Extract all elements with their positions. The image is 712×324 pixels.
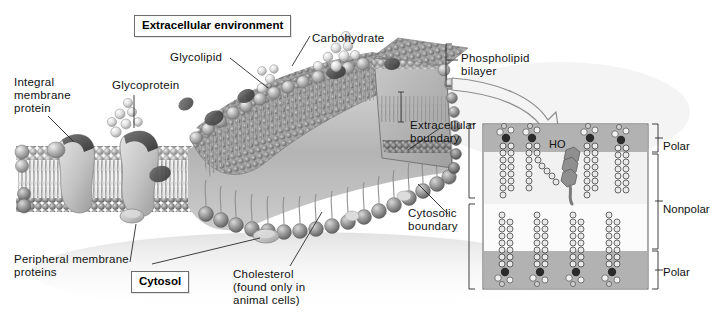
figure-canvas: HO Extracellular environment Cytosol Int… (0, 0, 712, 324)
nonpolar-label: Nonpolar (663, 203, 710, 216)
extracellular-environment-box: Extracellular environment (134, 15, 291, 37)
peripheral-membrane-protein-left (120, 209, 144, 223)
peripheral-membrane-protein-right (253, 229, 279, 243)
cholesterol-label: Cholesterol (found only in animal cells) (233, 268, 305, 308)
integral-membrane-protein-label: Integral membrane protein (14, 76, 71, 116)
polar-bottom-label: Polar (663, 266, 690, 279)
left-bilayer-strip (15, 145, 198, 213)
hydroxyl-label-svg: HO (549, 138, 566, 150)
extracellular-boundary-label: Extracellular boundary (410, 119, 476, 145)
cytosol-box: Cytosol (131, 271, 189, 293)
inset-panel: HO (469, 123, 663, 289)
leader-integral-protein (48, 116, 74, 142)
glycoprotein-label: Glycoprotein (112, 79, 179, 92)
inset-right-brackets (652, 124, 663, 289)
polar-top-label: Polar (663, 140, 690, 153)
leader-carbohydrate (292, 36, 310, 66)
cytosolic-boundary-label: Cytosolic boundary (408, 207, 458, 233)
carbohydrate-label: Carbohydrate (312, 32, 384, 45)
phospholipid-bilayer-label: Phospholipid bilayer (461, 52, 530, 78)
glycolipid-label: Glycolipid (170, 51, 222, 64)
peripheral-membrane-proteins-label: Peripheral membrane proteins (14, 253, 129, 279)
